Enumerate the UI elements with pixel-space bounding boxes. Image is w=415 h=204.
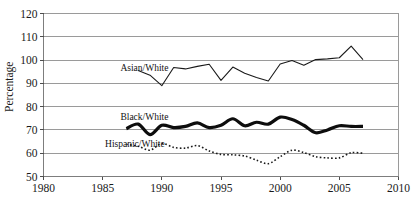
y-tick-label-100: 100: [20, 54, 38, 66]
x-tick-label-1980: 1980: [32, 182, 55, 194]
x-tick-label-1995: 1995: [210, 182, 233, 194]
y-tick-label-80: 80: [26, 101, 38, 113]
y-tick-label-70: 70: [26, 124, 38, 136]
line-chart: 1201101009080706050 19801985199019952000…: [0, 0, 415, 204]
x-tick-label-2010: 2010: [387, 182, 410, 194]
gridlines: [44, 14, 399, 177]
x-tick-label-2000: 2000: [269, 182, 292, 194]
series-annotations: Asian/WhiteBlack/WhiteHispanic/White: [105, 63, 168, 149]
x-tick-label-1990: 1990: [150, 182, 173, 194]
y-tick-label-90: 90: [26, 77, 38, 89]
y-tick-label-120: 120: [20, 8, 38, 20]
series-label-hispanic-white: Hispanic/White: [105, 139, 165, 149]
y-tick-label-60: 60: [26, 147, 38, 159]
chart-container: 1201101009080706050 19801985199019952000…: [0, 0, 415, 204]
x-tick-label-1985: 1985: [91, 182, 114, 194]
axes: [44, 14, 399, 177]
x-axis-tick-labels: 1980198519901995200020052010: [32, 182, 410, 194]
series-label-black-white: Black/White: [120, 112, 168, 122]
series-label-asian-white: Asian/White: [120, 63, 168, 73]
y-axis-title: Percentage: [3, 62, 16, 112]
x-tick-label-2005: 2005: [328, 182, 351, 194]
y-tick-label-110: 110: [21, 31, 38, 43]
y-axis-tick-labels: 1201101009080706050: [20, 8, 38, 183]
series-line-asian-white: [138, 46, 363, 86]
tick-marks: [40, 14, 399, 181]
